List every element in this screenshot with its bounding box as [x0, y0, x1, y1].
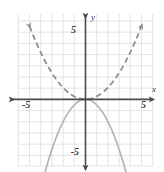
y-axis-positive-tick-label: 5: [71, 24, 76, 35]
axis-lines: [12, 16, 152, 168]
coordinate-graph-figure: -5 5 5 -5 x y: [0, 0, 164, 172]
graph-canvas: -5 5 5 -5 x y: [0, 0, 164, 172]
x-axis-negative-tick-label: -5: [22, 99, 30, 110]
y-axis-negative-tick-label: -5: [71, 146, 79, 157]
x-axis-name-label: x: [151, 84, 156, 94]
y-axis-name-label: y: [90, 12, 95, 22]
x-axis-positive-tick-label: 5: [141, 99, 146, 110]
